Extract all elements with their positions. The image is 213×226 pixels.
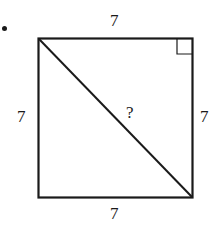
right-angle-marker-icon bbox=[177, 39, 192, 54]
label-diagonal: ? bbox=[126, 104, 134, 121]
square-diagram bbox=[0, 0, 213, 226]
label-left: 7 bbox=[17, 108, 26, 125]
label-right: 7 bbox=[200, 108, 209, 125]
diagonal-line bbox=[39, 39, 192, 197]
label-bottom: 7 bbox=[110, 205, 119, 222]
label-top: 7 bbox=[110, 12, 119, 29]
